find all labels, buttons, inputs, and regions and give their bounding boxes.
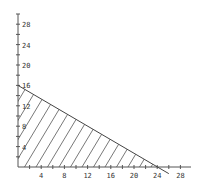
x-tick-label: 8 xyxy=(62,172,66,180)
y-tick-label: 16 xyxy=(22,82,30,90)
hatch-line xyxy=(48,67,108,167)
y-tick-label: 8 xyxy=(22,123,26,131)
x-tick-label: 28 xyxy=(176,172,184,180)
hatch-line xyxy=(174,67,202,167)
hatch-line xyxy=(25,67,85,167)
hatch-line xyxy=(0,67,16,167)
x-tick-label: 4 xyxy=(39,172,43,180)
hatch-line xyxy=(2,67,62,167)
y-tick-label: 24 xyxy=(22,42,30,50)
hatch-line xyxy=(59,67,119,167)
hatch-line xyxy=(163,67,203,167)
hatch-line xyxy=(82,67,142,167)
hatch-line xyxy=(71,67,131,167)
x-tick-label: 16 xyxy=(107,172,115,180)
y-tick-label: 28 xyxy=(22,21,30,29)
hatch-line xyxy=(0,67,4,167)
hatch-line xyxy=(94,67,154,167)
y-tick-label: 12 xyxy=(22,103,30,111)
hatch-line xyxy=(128,67,188,167)
x-tick-label: 20 xyxy=(130,172,138,180)
hatch-line xyxy=(117,67,177,167)
hatch-line xyxy=(140,67,200,167)
hatch-line xyxy=(197,67,202,167)
x-tick-label: 24 xyxy=(153,172,161,180)
boundary-line xyxy=(18,85,169,173)
y-tick-label: 20 xyxy=(22,62,30,70)
x-tick-label: 12 xyxy=(83,172,91,180)
hatch-line xyxy=(36,67,96,167)
hatch-line xyxy=(151,67,202,167)
hatch-line xyxy=(186,67,203,167)
hatch-line xyxy=(105,67,165,167)
hatch-line xyxy=(0,67,39,167)
chart: 481216202428 481216202428 xyxy=(0,0,202,190)
y-tick-label: 4 xyxy=(22,144,26,152)
